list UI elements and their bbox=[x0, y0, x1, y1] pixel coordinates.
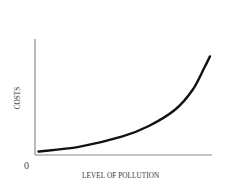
origin-label: 0 bbox=[24, 160, 29, 171]
cost-curve-chart bbox=[0, 0, 230, 192]
cost-curve bbox=[39, 56, 211, 151]
x-axis-label: LEVEL OF POLLUTION bbox=[82, 172, 159, 180]
y-axis-label: COSTS bbox=[14, 83, 22, 113]
